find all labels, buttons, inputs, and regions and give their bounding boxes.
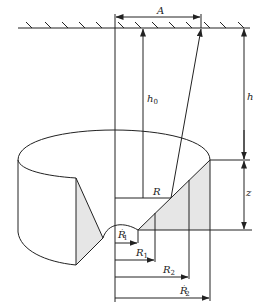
ground-surface (18, 22, 250, 28)
label-h0: h0 (147, 94, 158, 106)
label-R2-prime: R′2 (180, 285, 190, 298)
label-R: R (153, 187, 161, 197)
label-z: z (246, 188, 251, 198)
diagram-canvas: A h0 h z R R′1 R1 R2 R′2 (0, 0, 261, 308)
radius-arrows (115, 243, 209, 298)
label-A: A (157, 6, 164, 16)
label-R1-prime: R′1 (118, 229, 128, 242)
label-R1: R1 (136, 248, 148, 260)
label-h: h (247, 92, 253, 102)
diagram-svg (0, 0, 261, 308)
label-R2: R2 (163, 265, 175, 277)
dimension-A (116, 14, 201, 28)
